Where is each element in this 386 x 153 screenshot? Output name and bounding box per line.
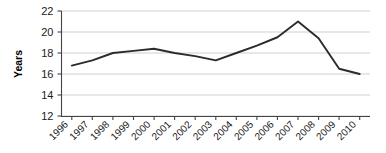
y-axis-tick-label: 20 xyxy=(41,26,53,38)
y-axis-tick-label: 14 xyxy=(41,89,53,101)
y-axis-tick-label: 22 xyxy=(41,5,53,17)
chart-canvas: 121416182022 199619971998199920002001200… xyxy=(0,0,386,153)
y-axis-tick-label: 12 xyxy=(41,110,53,122)
y-axis-title: Years xyxy=(12,50,24,78)
y-axis-tick-label: 18 xyxy=(41,47,53,59)
y-axis-tick-label: 16 xyxy=(41,68,53,80)
line-chart: 121416182022 199619971998199920002001200… xyxy=(0,0,386,153)
